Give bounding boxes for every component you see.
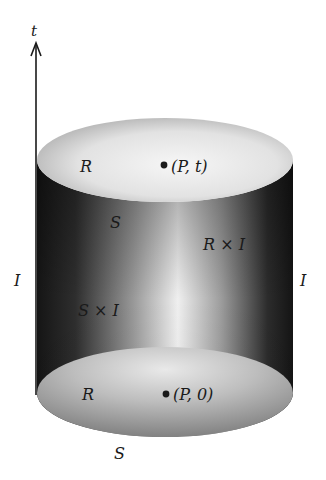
t-axis-label: t — [31, 22, 38, 40]
bottom-point-dot-icon — [163, 391, 170, 398]
top-point-dot-icon — [161, 162, 168, 169]
bottom-region-label: R — [81, 385, 94, 404]
left-interval-label: I — [13, 271, 21, 290]
top-boundary-label: S — [110, 213, 121, 232]
region-product-label: R × I — [202, 235, 246, 254]
bottom-point-label: (P, 0) — [173, 385, 213, 404]
right-interval-label: I — [299, 271, 307, 290]
bottom-boundary-label: S — [114, 444, 125, 463]
cylinder-diagram: t R (P, t) S R × I I I S × I R (P, 0) S — [0, 0, 326, 480]
boundary-product-label: S × I — [78, 301, 120, 320]
top-point-label: (P, t) — [171, 157, 208, 176]
top-disk — [37, 118, 293, 202]
top-region-label: R — [79, 157, 92, 176]
